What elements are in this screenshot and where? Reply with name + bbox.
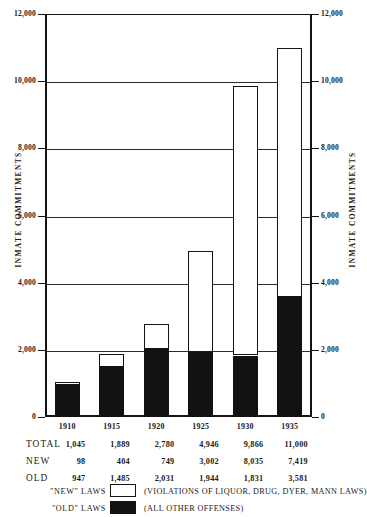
table-cell-new-1920: 749 bbox=[126, 457, 174, 466]
y-axis-label-right-0: 0 bbox=[321, 412, 325, 421]
scan-artifact-strip bbox=[0, 0, 362, 8]
table-cell-old-1930: 1,831 bbox=[215, 474, 263, 483]
y-tick-left-10000 bbox=[38, 81, 45, 82]
table-cell-old-1910: 947 bbox=[37, 474, 85, 483]
bar-1930 bbox=[233, 86, 258, 417]
table-cell-old-1935: 3,581 bbox=[260, 474, 308, 483]
y-tick-left-8000 bbox=[38, 148, 45, 149]
y-axis-label-right-2000: 2,000 bbox=[321, 345, 339, 354]
bar-segment-new-1925 bbox=[188, 251, 213, 352]
y-tick-right-4000 bbox=[312, 283, 319, 284]
bar-segment-old-1925 bbox=[188, 352, 213, 417]
y-tick-right-2000 bbox=[312, 350, 319, 351]
plot-area bbox=[45, 14, 312, 417]
table-cell-old-1915: 1,485 bbox=[82, 474, 130, 483]
table-cell-new-1935: 7,419 bbox=[260, 457, 308, 466]
table-cell-total-1910: 1,045 bbox=[37, 440, 85, 449]
legend-swatch-old-laws bbox=[110, 501, 136, 514]
table-cell-total-1935: 11,000 bbox=[260, 440, 308, 449]
table-cell-new-1930: 8,035 bbox=[215, 457, 263, 466]
y-axis-label-left-12000: 12,000 bbox=[0, 9, 36, 18]
table-cell-total-1915: 1,889 bbox=[82, 440, 130, 449]
y-axis-label-left-0: 0 bbox=[0, 412, 36, 421]
gridline-2000 bbox=[47, 351, 310, 352]
legend-swatch-new-laws bbox=[110, 484, 136, 497]
y-tick-right-12000 bbox=[312, 14, 319, 15]
x-axis-label-1930: 1930 bbox=[223, 422, 267, 431]
y-tick-right-8000 bbox=[312, 148, 319, 149]
gridline-6000 bbox=[47, 217, 310, 218]
x-axis-label-1910: 1910 bbox=[45, 422, 89, 431]
y-axis-label-right-4000: 4,000 bbox=[321, 278, 339, 287]
y-axis-label-right-12000: 12,000 bbox=[321, 9, 343, 18]
legend-label-new-laws: "NEW" LAWS bbox=[18, 487, 106, 496]
y-axis-label-left-2000: 2,000 bbox=[0, 345, 36, 354]
bar-segment-old-1915 bbox=[99, 367, 124, 417]
table-cell-total-1930: 9,866 bbox=[215, 440, 263, 449]
y-axis-label-right-8000: 8,000 bbox=[321, 143, 339, 152]
y-axis-title-left: INMATE COMMITMENTS bbox=[14, 145, 23, 275]
table-cell-total-1920: 2,780 bbox=[126, 440, 174, 449]
table-cell-new-1910: 98 bbox=[37, 457, 85, 466]
x-axis-label-1915: 1915 bbox=[90, 422, 134, 431]
legend-description-new-laws: (VIOLATIONS OF LIQUOR, DRUG, DYER, MANN … bbox=[144, 487, 367, 496]
legend-label-old-laws: "OLD" LAWS bbox=[18, 504, 106, 513]
y-tick-right-6000 bbox=[312, 216, 319, 217]
gridline-8000 bbox=[47, 149, 310, 150]
bar-segment-new-1915 bbox=[99, 354, 124, 368]
table-cell-new-1925: 3,002 bbox=[171, 457, 219, 466]
bar-segment-new-1930 bbox=[233, 86, 258, 356]
bar-segment-new-1935 bbox=[277, 48, 302, 297]
bar-segment-old-1930 bbox=[233, 356, 258, 417]
bar-1935 bbox=[277, 48, 302, 417]
gridline-4000 bbox=[47, 284, 310, 285]
table-cell-old-1920: 2,031 bbox=[126, 474, 174, 483]
bar-segment-new-1920 bbox=[144, 324, 169, 349]
table-cell-total-1925: 4,946 bbox=[171, 440, 219, 449]
y-axis-label-left-4000: 4,000 bbox=[0, 278, 36, 287]
bar-1915 bbox=[99, 354, 124, 417]
y-tick-left-4000 bbox=[38, 283, 45, 284]
table-cell-old-1925: 1,944 bbox=[171, 474, 219, 483]
y-tick-left-12000 bbox=[38, 14, 45, 15]
y-axis-label-left-10000: 10,000 bbox=[0, 76, 36, 85]
y-axis-label-right-6000: 6,000 bbox=[321, 211, 339, 220]
legend-description-old-laws: (ALL OTHER OFFENSES) bbox=[144, 504, 244, 513]
y-tick-left-6000 bbox=[38, 216, 45, 217]
y-tick-left-2000 bbox=[38, 350, 45, 351]
bar-1910 bbox=[55, 382, 80, 417]
y-tick-right-10000 bbox=[312, 81, 319, 82]
x-axis-label-1935: 1935 bbox=[268, 422, 312, 431]
bar-1925 bbox=[188, 251, 213, 417]
gridline-10000 bbox=[47, 82, 310, 83]
y-tick-right-0 bbox=[312, 417, 319, 418]
x-axis-label-1925: 1925 bbox=[179, 422, 223, 431]
y-axis-label-right-10000: 10,000 bbox=[321, 76, 343, 85]
y-axis-title-right: INMATE COMMITMENTS bbox=[348, 145, 357, 275]
bar-segment-old-1920 bbox=[144, 349, 169, 417]
bar-segment-old-1910 bbox=[55, 385, 80, 417]
y-tick-left-0 bbox=[38, 417, 45, 418]
bar-1920 bbox=[144, 324, 169, 417]
bar-segment-old-1935 bbox=[277, 297, 302, 417]
table-cell-new-1915: 404 bbox=[82, 457, 130, 466]
x-axis-label-1920: 1920 bbox=[134, 422, 178, 431]
